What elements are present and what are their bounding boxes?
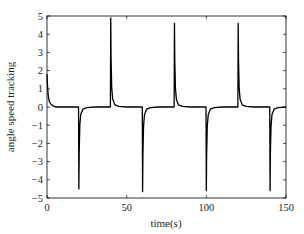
y-axis-label: angle speed tracking — [4, 61, 16, 152]
y-tick-label: −5 — [32, 193, 43, 204]
x-tick-label: 50 — [121, 202, 132, 213]
x-axis-label: time(s) — [150, 217, 181, 230]
y-tick-label: −1 — [32, 120, 43, 131]
y-tick-label: 4 — [38, 29, 44, 40]
y-tick-label: −3 — [32, 156, 43, 167]
y-tick-label: 2 — [38, 65, 43, 76]
y-tick-label: 1 — [38, 83, 43, 94]
x-tick-label: 100 — [198, 202, 214, 213]
y-tick-label: 5 — [38, 11, 43, 22]
x-tick-label: 0 — [44, 202, 49, 213]
y-tick-label: 3 — [38, 47, 43, 58]
y-tick-label: −2 — [32, 138, 43, 149]
y-tick-label: 0 — [38, 102, 43, 113]
line-chart: 543210−1−2−3−4−5 050100150 time(s) angle… — [0, 0, 304, 234]
x-tick-label: 150 — [278, 202, 294, 213]
y-tick-label: −4 — [32, 174, 44, 185]
